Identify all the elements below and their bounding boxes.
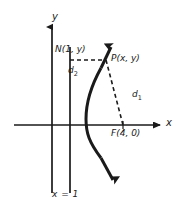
point-p-label: P(x, y) bbox=[111, 54, 140, 63]
distance-d2-subscript: 2 bbox=[74, 70, 78, 78]
distance-d2-label: d2 bbox=[68, 66, 78, 77]
segment-d1 bbox=[106, 60, 123, 125]
distance-d1-subscript: 1 bbox=[138, 94, 142, 102]
directrix-label: x = 1 bbox=[52, 190, 79, 199]
point-f-label: F(4, 0) bbox=[111, 129, 140, 138]
parabola-figure: y x N(1, y) P(x, y) F(4, 0) d1 d2 x = 1 bbox=[0, 0, 179, 212]
distance-d1-label: d1 bbox=[132, 90, 142, 101]
x-axis-label: x bbox=[166, 118, 172, 128]
point-n-label: N(1, y) bbox=[55, 45, 86, 54]
figure-canvas bbox=[0, 0, 179, 212]
parabola-arrow-bottom bbox=[101, 158, 113, 180]
parabola-arrow-top bbox=[101, 47, 111, 68]
parabola-curve bbox=[86, 68, 101, 158]
y-axis-label: y bbox=[52, 12, 58, 22]
